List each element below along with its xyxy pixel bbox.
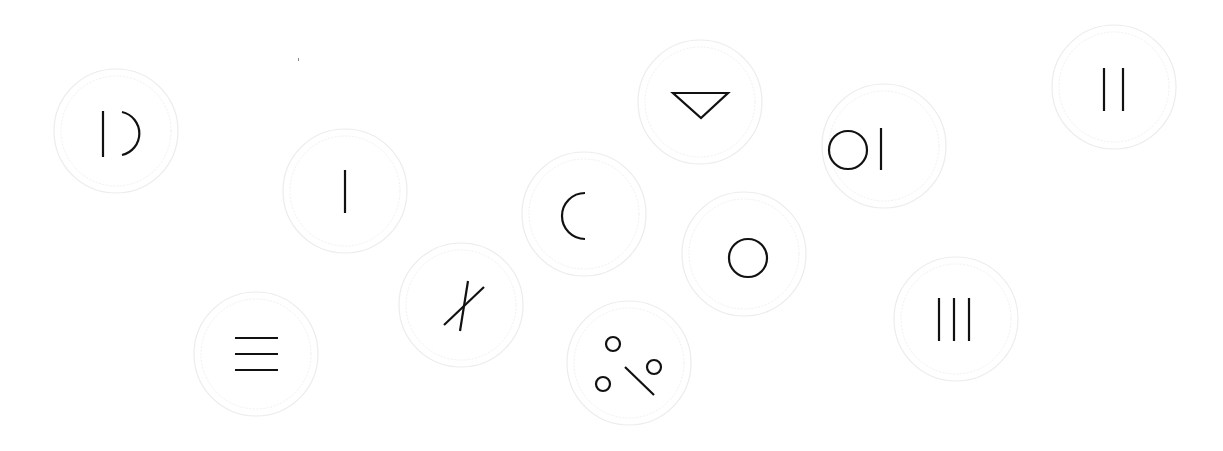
token-circle[interactable] [680,190,808,318]
token-left-arc[interactable] [520,150,648,278]
stray-mark [298,58,299,61]
three-vertical-bars-icon [892,255,1020,383]
left-arc-icon [520,150,648,278]
crossed-lines-icon [397,241,525,369]
two-vertical-bars-icon [1050,23,1178,151]
token-crossed-lines[interactable] [397,241,525,369]
three-horizontal-bars-icon [192,290,320,418]
token-dots-and-slash[interactable] [565,299,693,427]
bar-arc-icon [52,67,180,195]
dots-and-slash-icon [565,299,693,427]
token-three-vertical-bars[interactable] [892,255,1020,383]
circle-icon [680,190,808,318]
token-down-triangle[interactable] [636,38,764,166]
circle-bar-icon [820,82,948,210]
token-bar-arc[interactable] [52,67,180,195]
down-triangle-icon [636,38,764,166]
token-single-bar[interactable] [281,127,409,255]
token-circle-bar[interactable] [820,82,948,210]
token-two-vertical-bars[interactable] [1050,23,1178,151]
token-three-horizontal-bars[interactable] [192,290,320,418]
single-bar-icon [281,127,409,255]
